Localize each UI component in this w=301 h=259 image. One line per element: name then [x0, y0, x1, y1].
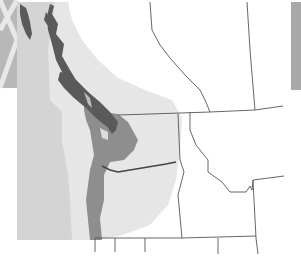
- range-map: [0, 0, 301, 259]
- left-panel-pattern: [0, 0, 17, 88]
